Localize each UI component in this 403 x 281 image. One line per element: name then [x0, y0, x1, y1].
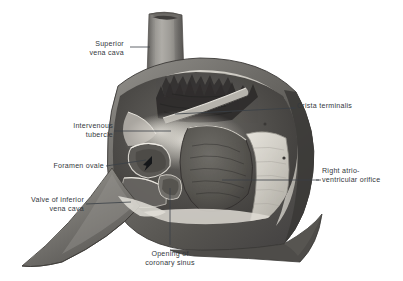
label-opening-of-coronary-sinus: Opening of coronary sinus [120, 250, 220, 267]
label-intervenous-tubercle: Intervenous tubercle [0, 122, 113, 139]
label-valve-of-inferior-vena-cava: Valve of inferior vena cava [0, 196, 84, 213]
label-line: Foramen ovale [0, 162, 104, 171]
atrioventricular-orifice [180, 126, 253, 212]
label-superior-vena-cava: Superior vena cava [4, 40, 124, 57]
label-foramen-ovale: Foramen ovale [0, 162, 104, 171]
label-right-atrioventricular-orifice: Right atrio- ventricular orifice [322, 167, 380, 184]
label-line: Intervenous [0, 122, 113, 131]
label-line: coronary sinus [120, 259, 220, 268]
label-line: Opening of [120, 250, 220, 259]
label-line: Right atrio- [322, 167, 380, 176]
label-line: vena cava [0, 205, 84, 214]
label-line: vena cava [4, 49, 124, 58]
anatomical-figure: Superior vena cava Crista terminalis Int… [0, 0, 403, 281]
label-line: Crista terminalis [297, 102, 352, 111]
label-line: ventricular orifice [322, 176, 380, 185]
label-line: Valve of inferior [0, 196, 84, 205]
label-line: tubercle [0, 131, 113, 140]
label-line: Superior [4, 40, 124, 49]
label-crista-terminalis: Crista terminalis [297, 102, 352, 111]
